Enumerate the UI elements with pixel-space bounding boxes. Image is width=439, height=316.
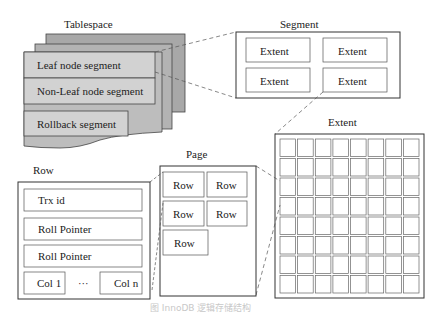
page-group: Page Row Row Row Row Row: [160, 148, 256, 296]
extent-page-cell: [351, 178, 367, 196]
extent-page-cell: [333, 237, 349, 255]
extent-page-cell: [368, 237, 384, 255]
extent-page-cell: [298, 237, 314, 255]
page-title: Page: [186, 148, 208, 160]
extent-page-cell: [386, 159, 402, 177]
extent-page-cell: [298, 217, 314, 235]
extent-page-cell: [386, 256, 402, 274]
row-col-ellipsis: ···: [78, 278, 89, 289]
extent-page-cell: [298, 276, 314, 294]
row-group: Row Trx id Roll Pointer Roll Pointer Col…: [18, 164, 150, 299]
extent-page-cell: [403, 178, 419, 196]
extent-page-cell: [315, 217, 331, 235]
extent-page-cell: [280, 139, 296, 157]
row-col-1-label: Col 1: [37, 277, 61, 289]
extent-page-cell: [280, 237, 296, 255]
row-field-trx-id-label: Trx id: [38, 194, 65, 206]
extent-page-cell: [403, 139, 419, 157]
tablespace-title: Tablespace: [64, 18, 113, 30]
extent-page-cell: [368, 217, 384, 235]
extent-page-cell: [386, 178, 402, 196]
leaf-node-segment-label: Leaf node segment: [37, 59, 121, 71]
extent-page-cell: [403, 237, 419, 255]
extent-page-cell: [368, 198, 384, 216]
extent-page-cell: [315, 256, 331, 274]
extent-page-cell: [368, 178, 384, 196]
extent-group: Extent: [275, 116, 424, 298]
extent-page-cell: [333, 198, 349, 216]
extent-page-cell: [403, 217, 419, 235]
extent-page-cell: [298, 198, 314, 216]
extent-page-cell: [386, 276, 402, 294]
extent-page-cell: [280, 217, 296, 235]
segment-title: Segment: [280, 18, 319, 30]
extent-page-cell: [403, 276, 419, 294]
extent-page-cell: [280, 276, 296, 294]
extent-page-cell: [298, 178, 314, 196]
tablespace-group: Tablespace Leaf node segment Non-Leaf no…: [24, 18, 185, 148]
extent-page-cell: [280, 178, 296, 196]
segment-extent-4-label: Extent: [338, 75, 367, 87]
extent-page-cell: [368, 159, 384, 177]
extent-page-cell: [351, 159, 367, 177]
figure-caption: 图 InnoDB 逻辑存储结构: [150, 302, 251, 313]
extent-page-cell: [280, 198, 296, 216]
segment-group: Segment Extent Extent Extent Extent: [236, 18, 400, 98]
segment-extent-2-label: Extent: [338, 45, 367, 57]
segment-extent-1-label: Extent: [260, 45, 289, 57]
extent-page-cell: [351, 217, 367, 235]
row-col-n-label: Col n: [114, 277, 139, 289]
extent-page-cell: [368, 256, 384, 274]
extent-page-cell: [315, 178, 331, 196]
extent-page-cell: [386, 237, 402, 255]
extent-page-cell: [315, 198, 331, 216]
non-leaf-node-segment-label: Non-Leaf node segment: [37, 85, 143, 97]
page-row-4-label: Row: [216, 208, 237, 220]
row-field-roll-pointer-2-label: Roll Pointer: [38, 250, 92, 262]
extent-page-cell: [386, 198, 402, 216]
extent-page-cell: [403, 198, 419, 216]
extent-page-cell: [351, 237, 367, 255]
page-row-3-label: Row: [173, 208, 194, 220]
extent-page-cell: [315, 237, 331, 255]
extent-page-cell: [403, 256, 419, 274]
rollback-segment-label: Rollback segment: [37, 118, 116, 130]
extent-page-cell: [315, 159, 331, 177]
extent-page-cell: [368, 276, 384, 294]
row-title: Row: [33, 164, 54, 176]
extent-page-cell: [333, 276, 349, 294]
extent-page-cell: [403, 159, 419, 177]
extent-page-cell: [351, 198, 367, 216]
extent-page-cell: [280, 159, 296, 177]
extent-page-cell: [351, 139, 367, 157]
extent-page-cell: [315, 276, 331, 294]
extent-page-cell: [386, 139, 402, 157]
extent-page-cell: [298, 159, 314, 177]
extent-page-cell: [315, 139, 331, 157]
extent-page-cell: [333, 217, 349, 235]
extent-page-cell: [333, 178, 349, 196]
innodb-storage-diagram: Tablespace Leaf node segment Non-Leaf no…: [0, 0, 439, 316]
page-row-1-label: Row: [173, 179, 194, 191]
segment-extent-3-label: Extent: [260, 75, 289, 87]
extent-page-cell: [280, 256, 296, 274]
extent-page-cell: [351, 276, 367, 294]
row-field-roll-pointer-1-label: Roll Pointer: [38, 223, 92, 235]
extent-page-cell: [333, 159, 349, 177]
extent-page-cell: [351, 256, 367, 274]
extent-title: Extent: [328, 116, 357, 128]
extent-page-cell: [333, 256, 349, 274]
extent-page-cell: [298, 139, 314, 157]
extent-page-cell: [386, 217, 402, 235]
extent-page-cell: [368, 139, 384, 157]
extent-page-cell: [298, 256, 314, 274]
page-row-5-label: Row: [174, 237, 195, 249]
extent-page-cell: [333, 139, 349, 157]
page-row-2-label: Row: [216, 179, 237, 191]
